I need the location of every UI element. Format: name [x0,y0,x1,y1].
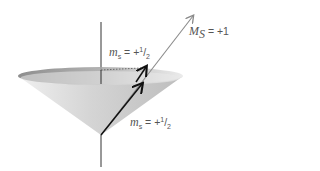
total-spin-label: MS = +1 [189,24,229,42]
lower-spin-label: ms = +1/2 [130,115,171,130]
upper-spin-label: ms = +1/2 [109,45,150,60]
